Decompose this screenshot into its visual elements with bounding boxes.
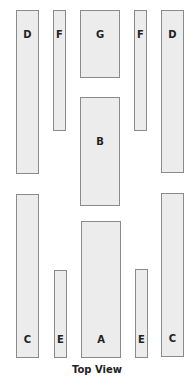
piece-label: E (55, 335, 66, 345)
piece-label: C (162, 334, 183, 344)
piece-label: E (136, 335, 147, 345)
piece-e-right: E (135, 269, 148, 358)
piece-label: F (135, 30, 146, 40)
piece-b: B (80, 97, 120, 206)
piece-c-left: C (16, 194, 39, 358)
piece-g: G (80, 10, 120, 78)
piece-label: D (17, 30, 38, 40)
piece-d-right: D (161, 10, 184, 173)
top-view-diagram: D F G F D B C E A E C Top View (0, 0, 194, 379)
piece-label: F (54, 30, 65, 40)
diagram-caption: Top View (0, 364, 194, 375)
piece-d-left: D (16, 10, 39, 174)
piece-a: A (81, 221, 121, 358)
piece-f-right: F (134, 10, 147, 131)
piece-label: D (162, 30, 183, 40)
piece-label: G (81, 30, 119, 40)
piece-e-left: E (54, 270, 67, 358)
piece-label: A (82, 335, 120, 345)
piece-f-left: F (53, 10, 66, 131)
piece-label: B (81, 137, 119, 147)
piece-c-right: C (161, 193, 184, 357)
piece-label: C (17, 335, 38, 345)
